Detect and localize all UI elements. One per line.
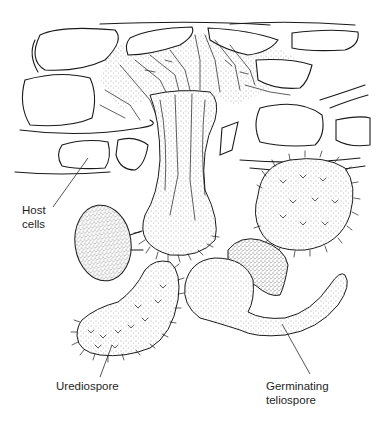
host-cell <box>336 117 370 146</box>
germinating-teliospore-label: Germinating teliospore <box>266 379 329 407</box>
host-cell <box>116 138 148 170</box>
germinating-teliospore-label-line2: teliospore <box>266 393 329 407</box>
germinating-teliospore-label-line1: Germinating <box>266 379 329 393</box>
spiny-spore-upper-right <box>254 151 360 257</box>
rust-sorus-illustration <box>0 0 384 429</box>
host-cells-label-line1: Host <box>22 203 46 217</box>
sorus-stalk <box>134 91 219 262</box>
urediospore-label: Urediospore <box>56 379 119 393</box>
urediospore <box>71 261 184 377</box>
host-cell <box>22 74 94 125</box>
host-cells-label: Host cells <box>22 203 46 231</box>
smooth-spore <box>70 201 143 284</box>
host-cell <box>292 30 358 50</box>
host-cell <box>256 104 323 146</box>
host-cells-label-line2: cells <box>22 217 46 231</box>
host-cell <box>220 122 238 155</box>
host-cell <box>59 141 110 169</box>
urediospore-label-line1: Urediospore <box>56 379 119 393</box>
